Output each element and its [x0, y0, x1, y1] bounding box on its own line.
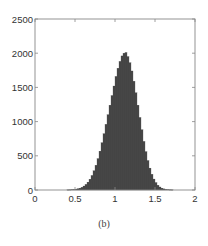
- x-tick-label: 1: [112, 193, 117, 204]
- histogram-bar: [139, 117, 141, 190]
- histogram-bar: [159, 187, 161, 190]
- histogram-bar: [91, 175, 93, 190]
- histogram-bar: [135, 93, 137, 190]
- histogram-bar: [157, 185, 159, 190]
- histogram-bar: [115, 76, 117, 190]
- histogram-bar: [129, 63, 131, 190]
- y-tick-label: 2000: [12, 48, 33, 59]
- histogram-bar: [101, 143, 103, 190]
- histogram-bar: [141, 130, 143, 190]
- histogram-bar: [117, 68, 119, 190]
- histogram-bar: [121, 56, 123, 190]
- histogram-bar: [109, 105, 111, 190]
- histogram-bar: [145, 152, 147, 190]
- histogram-bar: [87, 182, 89, 190]
- y-tick-label: 500: [17, 150, 33, 161]
- histogram-bar: [83, 186, 85, 190]
- histogram-bar: [149, 168, 151, 190]
- histogram-bar: [105, 124, 107, 190]
- histogram-bar: [147, 161, 149, 190]
- histogram-bar: [137, 105, 139, 190]
- histogram-bar: [89, 179, 91, 190]
- histogram-bar: [131, 71, 133, 190]
- histogram-bar: [93, 171, 95, 190]
- histogram-chart: 05001000150020002500 00.511.52: [0, 0, 208, 210]
- histogram-bar: [85, 184, 87, 190]
- histogram-bar: [107, 115, 109, 190]
- histogram-bar: [125, 53, 127, 190]
- histogram-bar: [111, 96, 113, 190]
- histogram-bar: [133, 81, 135, 190]
- y-tick-label: 2500: [12, 14, 33, 25]
- histogram-bars: [67, 53, 173, 191]
- histogram-bar: [127, 57, 129, 190]
- x-tick-label: 2: [192, 193, 197, 204]
- x-tick-label: 0.5: [68, 193, 81, 204]
- histogram-bar: [143, 141, 145, 190]
- y-tick-label: 1000: [12, 116, 33, 127]
- histogram-bar: [95, 165, 97, 190]
- histogram-bar: [151, 174, 153, 190]
- x-tick-label: 0: [32, 193, 37, 204]
- y-tick-label: 1500: [12, 82, 33, 93]
- figure-caption: (b): [0, 218, 208, 229]
- x-tick-label: 1.5: [148, 193, 161, 204]
- histogram-bar: [123, 53, 125, 190]
- histogram-bar: [119, 61, 121, 190]
- histogram-bar: [103, 134, 105, 190]
- histogram-bar: [113, 86, 115, 190]
- histogram-bar: [97, 159, 99, 190]
- histogram-bar: [99, 151, 101, 190]
